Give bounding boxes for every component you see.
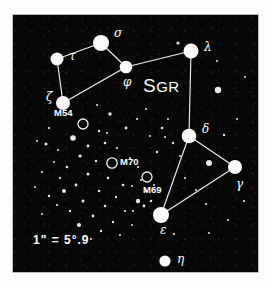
constellation-line bbox=[126, 51, 191, 67]
field-star bbox=[77, 223, 81, 227]
field-star bbox=[98, 130, 100, 132]
field-star bbox=[223, 134, 225, 136]
field-star bbox=[104, 205, 107, 208]
field-star bbox=[57, 149, 59, 151]
field-star bbox=[149, 135, 151, 137]
star-sigma bbox=[93, 35, 109, 51]
field-star bbox=[100, 230, 102, 232]
cluster-label-m70: M70 bbox=[120, 156, 138, 167]
field-star bbox=[227, 219, 229, 221]
constellation-name-label: SGR bbox=[143, 75, 180, 96]
field-star bbox=[205, 203, 207, 205]
cluster-marker-m70 bbox=[107, 158, 117, 168]
star-epsilon bbox=[153, 207, 169, 223]
field-star bbox=[45, 143, 48, 146]
field-star bbox=[62, 189, 66, 193]
sky-panel: M54M70M69στφλζδγεη SGR 1" = 5°.9 bbox=[13, 15, 258, 272]
star-label-eta: η bbox=[177, 252, 185, 266]
field-star bbox=[96, 104, 98, 106]
field-star bbox=[36, 140, 38, 142]
field-star bbox=[172, 142, 174, 144]
field-star bbox=[48, 195, 50, 197]
field-star bbox=[95, 160, 97, 162]
star-tau bbox=[51, 53, 64, 66]
field-star bbox=[195, 189, 197, 191]
cluster-label-m69: M69 bbox=[143, 184, 161, 195]
field-star bbox=[119, 234, 121, 236]
field-star bbox=[90, 238, 92, 240]
field-stars bbox=[34, 41, 246, 240]
field-star bbox=[78, 154, 81, 157]
constellation-line bbox=[189, 136, 235, 167]
field-star bbox=[132, 210, 134, 212]
field-star bbox=[136, 199, 140, 203]
sky-plot: M54M70M69στφλζδγεη SGR 1" = 5°.9 bbox=[13, 15, 258, 272]
field-star bbox=[48, 127, 50, 129]
field-star bbox=[208, 232, 210, 234]
field-star bbox=[140, 179, 142, 181]
field-star bbox=[82, 200, 85, 203]
field-star bbox=[164, 136, 166, 138]
field-star bbox=[145, 108, 147, 110]
field-star bbox=[56, 204, 58, 206]
star-delta bbox=[182, 129, 197, 144]
field-star bbox=[41, 213, 43, 215]
star-label-lambda: λ bbox=[203, 40, 212, 54]
constellation-line bbox=[161, 167, 235, 215]
field-star bbox=[75, 184, 78, 187]
star-label-phi: φ bbox=[123, 75, 132, 89]
field-star bbox=[215, 87, 221, 93]
field-star bbox=[161, 127, 164, 130]
constellation-line bbox=[63, 67, 126, 103]
field-star bbox=[243, 200, 245, 202]
star-chart-figure: M54M70M69στφλζδγεη SGR 1" = 5°.9 bbox=[0, 0, 272, 289]
star-gamma bbox=[228, 160, 242, 174]
field-star bbox=[87, 145, 90, 148]
field-star bbox=[236, 118, 238, 120]
named-stars bbox=[51, 35, 243, 267]
field-star bbox=[41, 171, 43, 173]
field-star bbox=[92, 215, 95, 218]
star-label-epsilon: ε bbox=[160, 223, 166, 237]
field-star bbox=[70, 135, 76, 141]
star-lambda bbox=[184, 44, 199, 59]
field-star bbox=[87, 173, 90, 176]
star-label-tau: τ bbox=[69, 49, 76, 63]
star-label-gamma: γ bbox=[236, 177, 244, 191]
field-star bbox=[176, 41, 179, 44]
field-star bbox=[216, 60, 218, 62]
field-star bbox=[206, 160, 212, 166]
field-star bbox=[53, 161, 55, 163]
messier-clusters bbox=[78, 119, 152, 182]
field-star bbox=[131, 224, 133, 226]
constellation-line bbox=[161, 136, 189, 215]
field-star bbox=[69, 210, 71, 212]
field-star bbox=[179, 155, 181, 157]
field-star bbox=[131, 185, 133, 187]
field-star bbox=[184, 177, 186, 179]
star-label-delta: δ bbox=[202, 122, 209, 136]
field-star bbox=[107, 177, 109, 179]
star-label-sigma: σ bbox=[114, 26, 123, 40]
constellation-line bbox=[189, 51, 191, 136]
cluster-marker-m54 bbox=[78, 119, 88, 129]
field-star bbox=[104, 142, 107, 145]
star-label-zeta: ζ bbox=[46, 90, 54, 104]
star-phi bbox=[120, 61, 133, 74]
field-star bbox=[136, 118, 138, 120]
field-star bbox=[66, 166, 69, 169]
field-star bbox=[167, 118, 169, 120]
field-star bbox=[156, 151, 158, 153]
field-star bbox=[150, 200, 152, 202]
cluster-label-m54: M54 bbox=[54, 107, 73, 118]
field-star bbox=[125, 127, 128, 130]
field-star bbox=[115, 196, 117, 198]
field-star bbox=[173, 233, 175, 235]
cluster-marker-m69 bbox=[142, 172, 152, 182]
star-eta bbox=[159, 255, 170, 266]
field-star bbox=[116, 147, 118, 149]
field-star bbox=[122, 184, 125, 187]
field-star bbox=[108, 112, 111, 115]
field-star bbox=[34, 186, 36, 188]
scale-note: 1" = 5°.9 bbox=[33, 233, 90, 247]
